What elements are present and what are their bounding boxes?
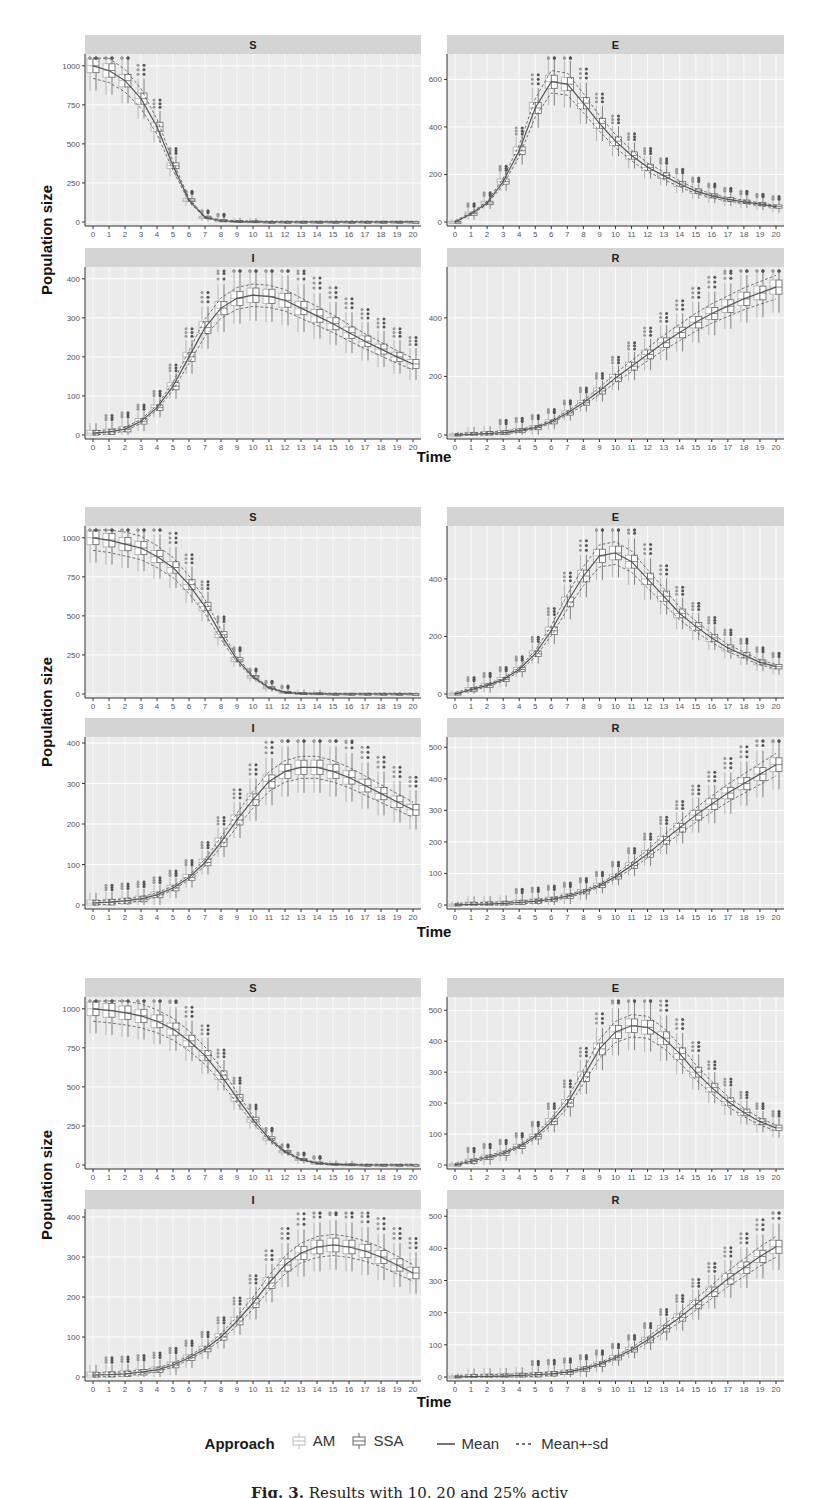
svg-text:20: 20: [409, 702, 418, 711]
svg-text:5: 5: [171, 1385, 176, 1394]
svg-text:3: 3: [139, 1173, 144, 1182]
svg-text:0: 0: [76, 431, 81, 440]
svg-text:8: 8: [581, 913, 586, 922]
panel-strip-title: S: [249, 982, 256, 994]
box-light-icon: [291, 1433, 307, 1449]
svg-text:8: 8: [219, 230, 224, 239]
svg-text:4: 4: [155, 443, 160, 452]
svg-text:8: 8: [219, 1173, 224, 1182]
svg-text:18: 18: [377, 443, 386, 452]
svg-text:11: 11: [627, 702, 636, 711]
svg-text:0: 0: [438, 1161, 443, 1170]
svg-text:10: 10: [611, 1173, 620, 1182]
svg-text:15: 15: [329, 1385, 338, 1394]
legend-item-ssa: SSA: [351, 1432, 403, 1449]
svg-text:7: 7: [565, 230, 570, 239]
svg-text:3: 3: [501, 702, 506, 711]
svg-text:500: 500: [429, 1212, 443, 1221]
figure-canvas: S025050075010000123456789101112131415161…: [0, 0, 819, 1498]
svg-text:16: 16: [345, 230, 354, 239]
svg-text:11: 11: [265, 702, 274, 711]
panel-strip-title: R: [612, 722, 620, 734]
solid-line-icon: [436, 1439, 456, 1449]
svg-text:20: 20: [772, 913, 781, 922]
panel-strip-title: R: [612, 252, 620, 264]
svg-text:17: 17: [723, 230, 732, 239]
svg-text:10: 10: [249, 913, 258, 922]
svg-text:10: 10: [249, 1173, 258, 1182]
legend-item-mean-sd: Mean+-sd: [515, 1435, 608, 1452]
svg-text:100: 100: [67, 392, 81, 401]
svg-text:13: 13: [659, 913, 668, 922]
svg-text:5: 5: [171, 1173, 176, 1182]
svg-text:7: 7: [203, 230, 208, 239]
svg-text:1000: 1000: [62, 1005, 80, 1014]
svg-text:4: 4: [155, 1173, 160, 1182]
svg-text:13: 13: [297, 230, 306, 239]
svg-text:18: 18: [377, 702, 386, 711]
panel-r-block3: R010020030040050001234567891011121314151…: [429, 1190, 784, 1394]
svg-text:4: 4: [517, 1173, 522, 1182]
svg-text:10: 10: [249, 1385, 258, 1394]
svg-text:4: 4: [517, 1385, 522, 1394]
svg-text:8: 8: [219, 702, 224, 711]
svg-text:9: 9: [235, 702, 240, 711]
panel-strip-title: S: [249, 39, 256, 51]
svg-text:6: 6: [187, 702, 192, 711]
svg-text:8: 8: [581, 443, 586, 452]
svg-text:6: 6: [187, 1385, 192, 1394]
svg-text:2: 2: [123, 1173, 128, 1182]
panel-s-block1: S025050075010000123456789101112131415161…: [62, 35, 421, 239]
svg-text:4: 4: [517, 702, 522, 711]
panel-strip-title: I: [251, 1194, 254, 1206]
svg-text:17: 17: [723, 702, 732, 711]
svg-text:10: 10: [611, 913, 620, 922]
svg-text:300: 300: [67, 780, 81, 789]
svg-text:1: 1: [469, 702, 474, 711]
svg-text:14: 14: [675, 230, 684, 239]
svg-text:17: 17: [723, 443, 732, 452]
svg-text:6: 6: [549, 913, 554, 922]
svg-text:13: 13: [659, 1385, 668, 1394]
svg-text:1000: 1000: [62, 534, 80, 543]
svg-text:8: 8: [219, 913, 224, 922]
svg-text:100: 100: [67, 1333, 81, 1342]
svg-text:5: 5: [171, 230, 176, 239]
svg-text:11: 11: [627, 443, 636, 452]
svg-text:14: 14: [675, 702, 684, 711]
figure-caption: Fig. 3. Results with 10, 20 and 25% acti…: [0, 1484, 819, 1498]
svg-text:8: 8: [581, 1173, 586, 1182]
svg-text:400: 400: [429, 1037, 443, 1046]
svg-text:12: 12: [281, 913, 290, 922]
svg-text:6: 6: [549, 702, 554, 711]
svg-text:0: 0: [76, 690, 81, 699]
caption-prefix: Fig. 3.: [251, 1484, 304, 1498]
x-axis-label: Time: [417, 923, 452, 940]
svg-text:17: 17: [723, 1385, 732, 1394]
svg-text:15: 15: [691, 702, 700, 711]
svg-text:7: 7: [565, 913, 570, 922]
svg-text:13: 13: [297, 1385, 306, 1394]
svg-text:9: 9: [235, 913, 240, 922]
svg-text:200: 200: [67, 1293, 81, 1302]
svg-text:7: 7: [565, 702, 570, 711]
panel-s-block3: S025050075010000123456789101112131415161…: [62, 978, 421, 1182]
svg-text:20: 20: [409, 913, 418, 922]
svg-text:5: 5: [533, 1385, 538, 1394]
svg-text:1: 1: [107, 1385, 112, 1394]
svg-text:0: 0: [91, 1173, 96, 1182]
svg-text:200: 200: [429, 1309, 443, 1318]
svg-text:3: 3: [501, 1173, 506, 1182]
svg-text:16: 16: [345, 702, 354, 711]
svg-text:300: 300: [67, 1253, 81, 1262]
svg-text:8: 8: [219, 1385, 224, 1394]
svg-text:15: 15: [329, 913, 338, 922]
svg-text:1: 1: [469, 230, 474, 239]
panel-r-block2: R010020030040050001234567891011121314151…: [429, 718, 784, 922]
svg-text:8: 8: [219, 443, 224, 452]
svg-text:9: 9: [597, 443, 602, 452]
svg-text:2: 2: [123, 702, 128, 711]
svg-text:10: 10: [611, 1385, 620, 1394]
svg-text:300: 300: [429, 1068, 443, 1077]
svg-text:18: 18: [739, 230, 748, 239]
